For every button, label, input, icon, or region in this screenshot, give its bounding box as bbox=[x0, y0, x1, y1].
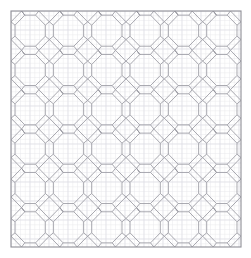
tessellation-drawing bbox=[0, 0, 251, 258]
pattern-canvas bbox=[0, 0, 251, 258]
